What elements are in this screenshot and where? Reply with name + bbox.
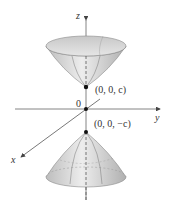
z-axis-label: z — [76, 11, 80, 21]
origin-point — [84, 107, 88, 111]
upper-vertex-point — [84, 85, 88, 89]
origin-label: 0 — [76, 99, 81, 109]
hyperboloid-diagram — [0, 0, 174, 210]
y-axis-label: y — [155, 113, 159, 123]
lower-sheet — [46, 132, 126, 200]
x-axis-label: x — [11, 155, 15, 165]
upper-vertex-label: (0, 0, c) — [95, 85, 126, 95]
lower-vertex-point — [84, 130, 88, 134]
lower-vertex-label: (0, 0, −c) — [94, 119, 131, 129]
upper-sheet — [46, 36, 126, 87]
